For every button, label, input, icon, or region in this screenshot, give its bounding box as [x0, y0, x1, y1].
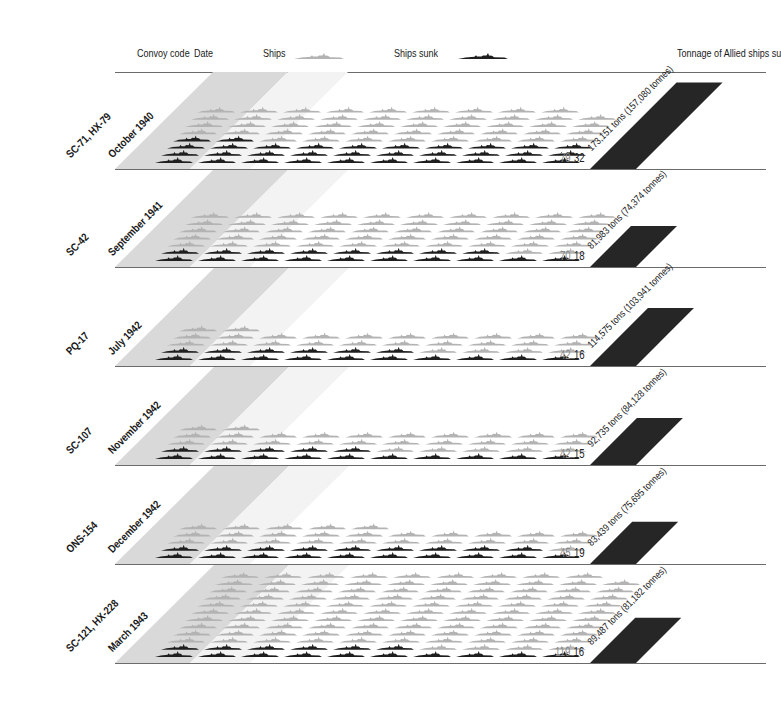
- ship-sunk-icon: [370, 453, 408, 459]
- ship-icon: [529, 615, 567, 621]
- ship-icon: [486, 121, 524, 127]
- ship-sunk-icon: [333, 446, 371, 452]
- ship-icon: [492, 608, 530, 614]
- ship-icon: [345, 629, 383, 635]
- ship-icon: [437, 622, 475, 628]
- ship-icon: [363, 212, 401, 218]
- ship-icon: [449, 212, 487, 218]
- ship-icon: [302, 233, 340, 239]
- ship-icon: [382, 439, 420, 445]
- ship-icon: [357, 615, 395, 621]
- ship-icon: [523, 622, 561, 628]
- ship-icon: [339, 439, 377, 445]
- ship-icon: [596, 586, 634, 592]
- ship-sunk-icon: [456, 453, 494, 459]
- ship-icon: [400, 615, 438, 621]
- ship-icon: [590, 593, 628, 599]
- ship-sunk-icon: [499, 354, 537, 360]
- ship-icon: [505, 644, 543, 650]
- ship-icon: [461, 593, 499, 599]
- ship-icon: [517, 530, 555, 536]
- ship-icon: [492, 114, 530, 120]
- ship-icon: [431, 431, 469, 437]
- ship-counts: 7932: [560, 151, 585, 165]
- ship-icon: [308, 523, 346, 529]
- ship-icon: [486, 219, 524, 225]
- ship-sunk-icon: [419, 545, 457, 551]
- ships-total-label: 42: [560, 447, 571, 461]
- ship-icon: [345, 233, 383, 239]
- ship-sunk-icon: [456, 354, 494, 360]
- ship-icon: [443, 219, 481, 225]
- ship-icon: [467, 586, 505, 592]
- ship-icon: [345, 431, 383, 437]
- ship-icon: [505, 347, 543, 353]
- ship-sunk-icon: [370, 651, 408, 657]
- ship-counts: 11916: [555, 645, 584, 659]
- ship-icon: [462, 347, 500, 353]
- ship-sunk-icon: [499, 255, 537, 261]
- ship-icon: [505, 248, 543, 254]
- convoy-section: SC-42September 1941701881,983 tons (74,3…: [0, 170, 766, 268]
- ship-sunk-icon: [499, 157, 537, 163]
- ship-icon: [339, 340, 377, 346]
- ship-icon: [393, 572, 431, 578]
- ship-icon: [326, 107, 364, 113]
- ships-total-label: 70: [560, 249, 571, 263]
- ship-sunk-icon: [284, 651, 322, 657]
- ship-icon: [474, 332, 512, 338]
- ship-icon: [436, 572, 474, 578]
- ship-icon: [382, 340, 420, 346]
- ship-sunk-icon: [333, 248, 371, 254]
- ship-icon: [406, 114, 444, 120]
- legend-ship-icon: [294, 53, 344, 59]
- ship-icon: [406, 608, 444, 614]
- ship-icon: [431, 233, 469, 239]
- ship-icon: [339, 241, 377, 247]
- ship-icon: [462, 446, 500, 452]
- ship-icon: [498, 107, 536, 113]
- ship-sunk-icon: [284, 354, 322, 360]
- ship-icon: [474, 431, 512, 437]
- ship-sunk-icon: [370, 552, 408, 558]
- ship-icon: [468, 439, 506, 445]
- ship-icon: [394, 128, 432, 134]
- ship-icon: [302, 629, 340, 635]
- ship-sunk-icon: [290, 545, 328, 551]
- ship-icon: [375, 593, 413, 599]
- ship-icon: [468, 340, 506, 346]
- ship-icon: [535, 212, 573, 218]
- ships-total-label: 119: [555, 645, 570, 659]
- ship-icon: [517, 431, 555, 437]
- ships-sunk-label: 18: [574, 249, 585, 263]
- ship-sunk-icon: [327, 157, 365, 163]
- ship-icon: [339, 637, 377, 643]
- ship-icon: [584, 601, 622, 607]
- ship-icon: [388, 431, 426, 437]
- ship-counts: 4216: [560, 348, 585, 362]
- ship-icon: [338, 586, 376, 592]
- ship-icon: [492, 212, 530, 218]
- ship-icon: [400, 219, 438, 225]
- convoy-section: SC-121, HX-228March 19431191689,487 tons…: [0, 565, 766, 664]
- ship-icon: [449, 114, 487, 120]
- ship-sunk-icon: [456, 157, 494, 163]
- ships-sunk-label: 32: [574, 151, 585, 165]
- ship-icon: [363, 114, 401, 120]
- ship-sunk-icon: [376, 248, 414, 254]
- ship-icon: [565, 572, 603, 578]
- ship-icon: [302, 431, 340, 437]
- ship-icon: [523, 226, 561, 232]
- ship-icon: [517, 135, 555, 141]
- ship-sunk-icon: [376, 347, 414, 353]
- ship-icon: [296, 439, 334, 445]
- ship-icon: [308, 128, 346, 134]
- ship-sunk-icon: [284, 453, 322, 459]
- ship-sunk-icon: [462, 545, 500, 551]
- ship-icon: [351, 523, 389, 529]
- ship-sunk-icon: [413, 552, 451, 558]
- ship-icon: [431, 530, 469, 536]
- ship-icon: [382, 538, 420, 544]
- ship-icon: [394, 622, 432, 628]
- ship-icon: [419, 446, 457, 452]
